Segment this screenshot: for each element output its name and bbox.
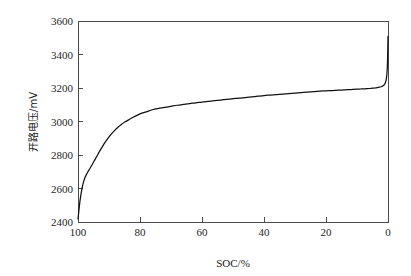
- x-tick-label: 20: [321, 226, 333, 238]
- y-axis-title: 开路电压/mV: [27, 92, 39, 152]
- x-tick-label: 80: [135, 226, 147, 238]
- x-tick-label: 40: [259, 226, 271, 238]
- x-tick-label: 60: [197, 226, 209, 238]
- y-tick-label: 3000: [51, 116, 74, 128]
- y-tick-label: 2800: [51, 149, 74, 161]
- ocv-soc-curve-figure: 2400260028003000320034003600 10080604020…: [0, 0, 411, 276]
- x-tick-label: 0: [385, 226, 391, 238]
- y-tick-label: 3200: [51, 82, 74, 94]
- x-tick-label: 100: [70, 226, 87, 238]
- y-tick-label: 3600: [51, 15, 74, 27]
- x-axis-title: SOC/%: [216, 257, 250, 269]
- y-tick-label: 3400: [51, 49, 74, 61]
- y-tick-label: 2600: [51, 183, 74, 195]
- chart-canvas: 2400260028003000320034003600 10080604020…: [0, 0, 411, 276]
